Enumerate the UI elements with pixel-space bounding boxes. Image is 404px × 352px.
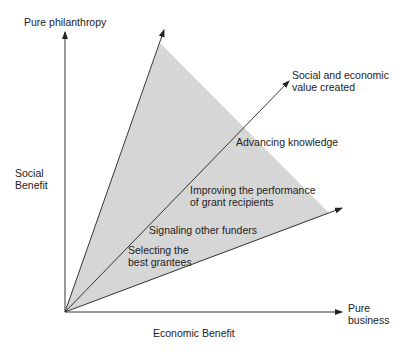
social-benefit-label: Social Benefit — [15, 167, 48, 191]
improving-performance-label: Improving the performance of grant recip… — [190, 184, 315, 208]
advancing-knowledge-label: Advancing knowledge — [236, 136, 338, 148]
pure-business-label: Pure business — [348, 302, 389, 326]
value-creation-diagram: Pure philanthropy Social Benefit Pure bu… — [0, 0, 404, 352]
signaling-funders-label: Signaling other funders — [149, 224, 257, 236]
diagram-graphics — [0, 0, 404, 352]
economic-benefit-label: Economic Benefit — [153, 327, 235, 339]
selecting-grantees-label: Selecting the best grantees — [128, 244, 192, 268]
pure-philanthropy-label: Pure philanthropy — [24, 16, 106, 28]
value-created-label: Social and economic value created — [292, 69, 389, 93]
